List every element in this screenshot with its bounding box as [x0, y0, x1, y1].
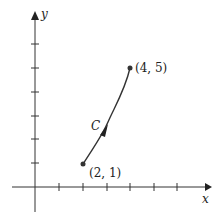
x-axis-arrow-icon	[205, 183, 212, 191]
start-point-label: (2, 1)	[89, 166, 121, 180]
direction-arrow-icon	[100, 124, 108, 137]
y-axis-label: y	[40, 7, 48, 21]
start-point	[81, 162, 86, 167]
end-point-label: (4, 5)	[135, 61, 167, 75]
diagram: y x C (2, 1) (4, 5)	[0, 0, 217, 222]
curve-c	[83, 68, 130, 164]
end-point	[128, 66, 133, 71]
y-axis-arrow-icon	[31, 11, 39, 20]
curve-label: C	[91, 119, 100, 133]
x-axis-label: x	[202, 192, 209, 206]
